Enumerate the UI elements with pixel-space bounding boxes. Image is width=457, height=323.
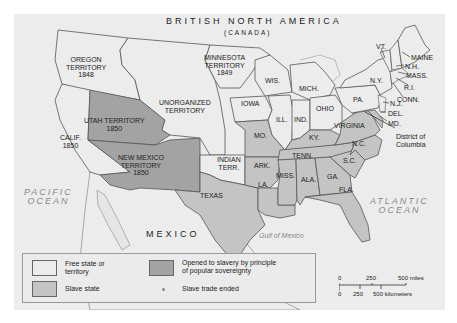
scale-miles-0: 0 <box>338 275 341 281</box>
label-south-carolina: S.C. <box>343 157 357 165</box>
label-mexico: MEXICO <box>146 231 200 239</box>
label-atlantic-ocean: ATLANTIC OCEAN <box>370 197 429 215</box>
legend-swatch-free <box>32 260 57 276</box>
scale-km-250: 250 <box>353 291 363 297</box>
legend-label-free: Free state or territory <box>65 260 105 275</box>
label-new-york: N.Y. <box>370 77 383 85</box>
label-oregon-territory: OREGON TERRITORY 1848 <box>66 56 106 79</box>
label-delaware: DEL. <box>388 110 404 118</box>
label-virginia: VIRGINIA <box>334 122 365 130</box>
label-florida: FLA. <box>339 186 354 194</box>
label-massachusetts: MASS. <box>406 72 428 80</box>
label-utah-territory: UTAH TERRITORY 1850 <box>84 117 145 132</box>
label-indiana: IND. <box>294 116 308 124</box>
scale-km-500: 500 kilometers <box>373 291 412 297</box>
label-missouri: MO. <box>254 132 267 140</box>
label-new-jersey: N.J. <box>390 100 402 108</box>
subtitle-canada: (CANADA) <box>224 29 271 37</box>
label-mississippi: MISS. <box>276 172 295 180</box>
label-minnesota-territory: MINNESOTA TERRITORY 1849 <box>204 54 245 77</box>
label-pennsylvania: PA. <box>353 96 364 104</box>
label-north-carolina: N.C. <box>352 140 366 148</box>
scale-miles-500: 500 miles <box>398 275 424 281</box>
label-indian-territory: INDIAN TERR. <box>217 156 241 171</box>
label-district-of-columbia: District of Columbia <box>396 133 426 148</box>
label-maine: MAINE <box>411 54 433 62</box>
label-illinois: ILL. <box>276 116 288 124</box>
label-pacific-ocean: PACIFIC OCEAN <box>24 188 73 206</box>
label-kentucky: KY. <box>309 134 319 142</box>
label-maryland: MD. <box>388 120 401 128</box>
legend-label-slave-trade: Slave trade ended <box>182 285 239 293</box>
label-louisiana: LA. <box>258 181 269 189</box>
legend: Free state or territory Slave state Open… <box>22 253 316 303</box>
label-ohio: OHIO <box>316 105 334 113</box>
label-vermont: VT. <box>376 43 386 51</box>
label-california: CALIF. 1850 <box>60 134 81 149</box>
legend-label-popular-sovereignty: Opened to slavery by principle of popula… <box>182 259 276 274</box>
label-wisconsin: WIS. <box>265 77 280 85</box>
legend-label-slave: Slave state <box>65 285 100 293</box>
label-unorganized-territory: UNORGANIZED TERRITORY <box>159 99 211 114</box>
label-georgia: GA. <box>327 173 339 181</box>
scale-miles-250: 250 <box>366 275 376 281</box>
label-rhode-island: R.I. <box>404 84 415 92</box>
label-gulf-of-mexico: Gulf of Mexico <box>259 232 304 240</box>
label-new-hampshire: N.H. <box>405 63 419 71</box>
legend-swatch-slave <box>32 281 57 297</box>
label-alabama: ALA. <box>301 176 316 184</box>
label-arkansas: ARK. <box>254 162 270 170</box>
label-iowa: IOWA <box>241 100 259 108</box>
title-british-north-america: BRITISH NORTH AMERICA <box>166 18 342 26</box>
scale-km-0: 0 <box>338 291 341 297</box>
label-texas: TEXAS <box>200 192 223 200</box>
label-michigan: MICH. <box>299 85 319 93</box>
legend-swatch-popular-sovereignty <box>149 260 174 276</box>
slave-trade-ended-dot-icon <box>162 288 165 291</box>
label-tennessee: TENN. <box>292 152 313 160</box>
label-new-mexico-territory: NEW MEXICO TERRITORY 1850 <box>118 154 164 177</box>
